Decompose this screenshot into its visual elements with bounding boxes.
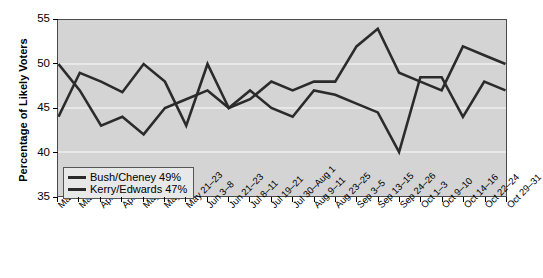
x-tick-mark <box>100 197 101 202</box>
x-tick-mark <box>164 197 165 202</box>
y-tick-mark <box>53 152 58 153</box>
x-tick-mark <box>78 197 79 202</box>
x-tick-mark <box>185 197 186 202</box>
x-tick-mark <box>271 197 272 202</box>
legend-swatch-kerry-icon <box>68 188 86 191</box>
x-tick-mark <box>420 197 421 202</box>
x-tick-mark <box>335 197 336 202</box>
chart-legend: Bush/Cheney 49% Kerry/Edwards 47% <box>63 167 194 199</box>
x-tick-mark <box>506 197 507 202</box>
x-tick-mark <box>228 197 229 202</box>
legend-label-bush: Bush/Cheney 49% <box>90 172 181 183</box>
x-tick-mark <box>207 197 208 202</box>
x-tick-mark <box>249 197 250 202</box>
legend-swatch-bush-icon <box>68 176 86 179</box>
legend-item: Bush/Cheney 49% <box>68 171 187 183</box>
y-tick-mark <box>53 19 58 20</box>
x-tick-mark <box>485 197 486 202</box>
legend-item: Kerry/Edwards 47% <box>68 183 187 195</box>
x-tick-mark <box>463 197 464 202</box>
x-tick-mark <box>121 197 122 202</box>
y-tick-mark <box>53 108 58 109</box>
x-tick-mark <box>143 197 144 202</box>
x-tick-mark <box>378 197 379 202</box>
legend-label-kerry: Kerry/Edwards 47% <box>90 184 187 195</box>
x-tick-mark <box>356 197 357 202</box>
x-tick-mark <box>57 197 58 202</box>
x-tick-mark <box>314 197 315 202</box>
y-tick-mark <box>53 63 58 64</box>
x-tick-mark <box>442 197 443 202</box>
x-tick-mark <box>292 197 293 202</box>
x-tick-mark <box>399 197 400 202</box>
